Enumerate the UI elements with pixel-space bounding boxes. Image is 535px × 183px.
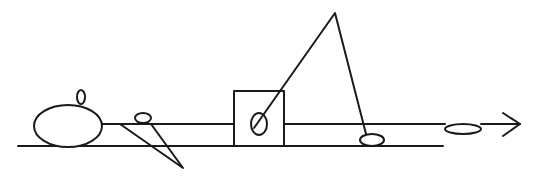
diagram-canvas [0, 0, 535, 183]
rail-slider-ellipse [445, 124, 481, 134]
small-pulley-ellipse [135, 113, 151, 123]
head-knob-ellipse [77, 90, 85, 104]
box-frame [234, 91, 284, 146]
box-pivot-ellipse [251, 113, 267, 135]
right-foot-ellipse [360, 134, 384, 146]
mechanism-diagram [0, 0, 535, 183]
large-body-ellipse [34, 105, 102, 147]
tall-triangle-arms [254, 13, 366, 134]
